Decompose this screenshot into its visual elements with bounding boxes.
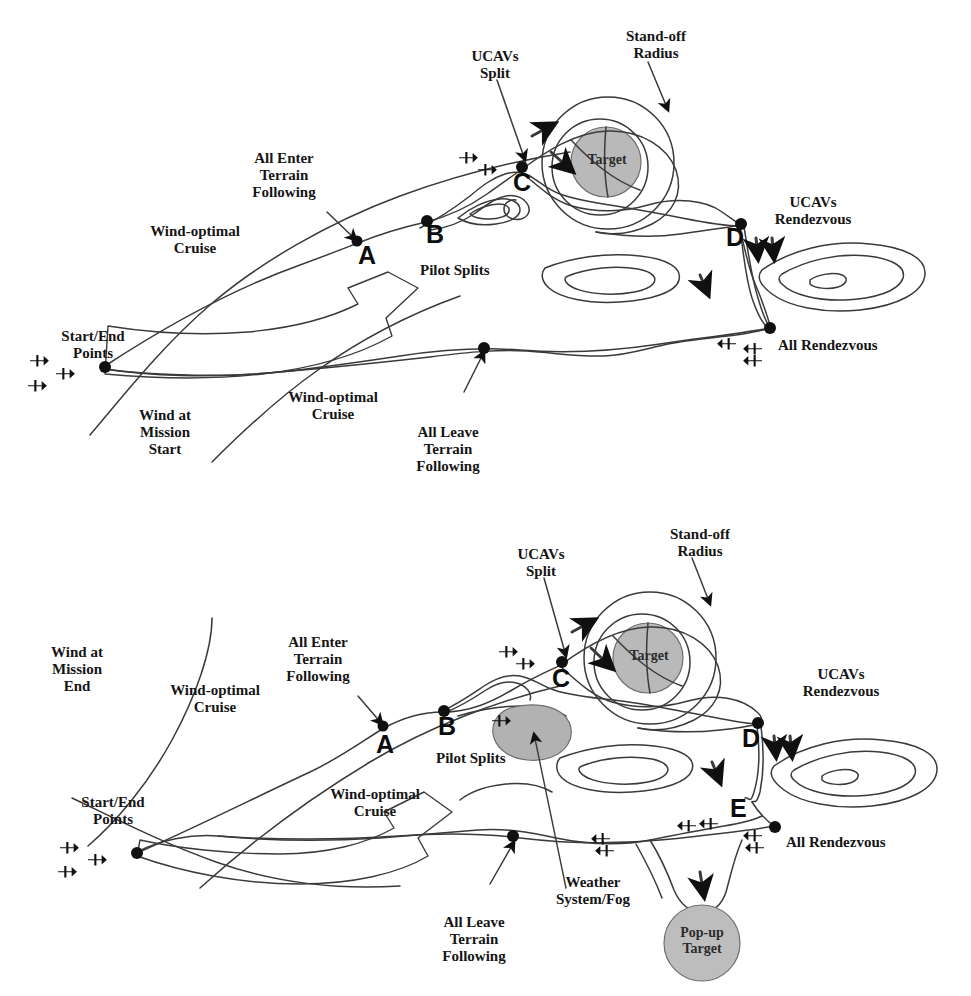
direction-arrow-d-down — [712, 762, 720, 782]
terrain-contour-left-low — [460, 783, 552, 800]
label-target: Target — [618, 648, 680, 664]
label-pilot-splits: Pilot Splits — [436, 750, 556, 767]
route-c-to-d — [638, 724, 757, 732]
waypoint-dot-all-leave-tf — [478, 342, 490, 354]
terrain-contour-mid-inner — [565, 267, 655, 294]
waypoint-dot-all-leave-tf — [507, 830, 519, 842]
waypoint-label-d: D — [726, 225, 744, 250]
label-all-rendezvous: All Rendezvous — [786, 834, 956, 851]
label-all-leave-terrain-following: All Leave Terrain Following — [414, 914, 534, 965]
aircraft-icon-approach-2 — [478, 164, 497, 176]
terrain-contour-mid-outer — [542, 255, 679, 303]
aircraft-icon-start-3 — [28, 380, 47, 392]
aircraft-icon-return-mid-2 — [595, 845, 614, 857]
label-wind-optimal-cruise-upper: Wind-optimal Cruise — [150, 682, 280, 716]
route-c-to-d — [596, 225, 740, 236]
direction-arrow-d-pair-2 — [772, 238, 774, 258]
leader-ucavs-split — [544, 578, 566, 656]
label-ucavs-split: UCAVs Split — [486, 546, 596, 580]
terrain-contour-mid-outer — [557, 745, 693, 793]
label-ucavs-split: UCAVs Split — [440, 48, 550, 82]
direction-arrow-d-pair-1 — [756, 238, 758, 258]
label-wind-at-mission-end: Wind at Mission End — [22, 644, 132, 695]
terrain-contour-right-outer — [759, 243, 925, 311]
label-wind-optimal-cruise-upper: Wind-optimal Cruise — [130, 223, 260, 257]
terrain-contour-right-mid — [791, 751, 915, 796]
leader-all-enter-tf — [358, 696, 382, 724]
label-pilot-splits: Pilot Splits — [420, 262, 540, 279]
route-return-lower — [112, 328, 770, 375]
terrain-contour-right-inner — [822, 770, 858, 785]
leader-all-leave-tf — [490, 842, 514, 884]
direction-arrow-to-popup — [700, 872, 704, 896]
route-return-lower — [137, 826, 774, 852]
leader-all-leave-tf — [464, 352, 484, 392]
terrain-contour-popup-valley — [650, 840, 742, 912]
aircraft-icon-start-3 — [58, 866, 77, 878]
label-wind-at-mission-start: Wind at Mission Start — [110, 407, 220, 458]
waypoint-label-a: A — [358, 243, 376, 268]
aircraft-icon-start-2 — [56, 368, 75, 380]
waypoint-label-a: A — [376, 732, 394, 757]
aircraft-icon-approach-1 — [499, 646, 518, 658]
label-ucavs-rendezvous: UCAVs Rendezvous — [748, 194, 878, 228]
label-all-rendezvous: All Rendezvous — [778, 337, 948, 354]
aircraft-icon-approach-2 — [516, 658, 535, 670]
label-start-end-points: Start/End Points — [38, 328, 148, 362]
waypoint-label-b: B — [426, 222, 444, 247]
aircraft-icon-rendezvous-1 — [743, 830, 762, 842]
label-popup-target: Pop-up Target — [664, 925, 740, 957]
top-mission-diagram: UCAVs Split Stand-off Radius All Enter T… — [0, 0, 971, 500]
aircraft-icon-rendezvous-1 — [717, 338, 736, 350]
waypoint-label-c: C — [513, 170, 531, 195]
leader-ucavs-split — [497, 80, 525, 160]
waypoint-dot-all-rendezvous — [764, 322, 776, 334]
aircraft-icon-rendezvous-2 — [745, 842, 764, 854]
label-wind-optimal-cruise-lower: Wind-optimal Cruise — [268, 389, 398, 423]
leader-standoff-radius — [648, 62, 668, 110]
waypoint-dot-start-end — [131, 847, 143, 859]
terrain-contour-right-outer — [771, 739, 937, 807]
label-all-enter-terrain-following: All Enter Terrain Following — [258, 634, 378, 685]
aircraft-icon-start-2 — [88, 854, 107, 866]
label-all-enter-terrain-following: All Enter Terrain Following — [224, 150, 344, 201]
label-target: Target — [576, 152, 638, 168]
aircraft-icon-e-2 — [677, 820, 696, 832]
label-weather-system-fog: Weather System/Fog — [528, 874, 658, 908]
route-d-to-rendezvous-a — [740, 227, 768, 328]
label-wind-optimal-cruise-lower: Wind-optimal Cruise — [310, 786, 440, 820]
waypoint-label-e: E — [730, 796, 747, 821]
direction-arrow-d-down — [700, 275, 708, 294]
aircraft-icon-rendezvous-2 — [743, 343, 762, 355]
aircraft-icon-start-1 — [60, 842, 79, 854]
label-standoff-radius: Stand-off Radius — [640, 526, 760, 560]
leader-standoff-radius — [692, 558, 710, 604]
direction-arrow-d-pair-2 — [790, 736, 792, 756]
aircraft-icon-approach-1 — [459, 152, 478, 164]
terrain-contour-right-inner — [810, 274, 846, 289]
direction-arrow-d-pair-1 — [774, 736, 776, 756]
bottom-mission-diagram: UCAVs Split Stand-off Radius All Enter T… — [0, 500, 971, 996]
terrain-contour-main — [218, 816, 762, 844]
waypoint-label-b: B — [438, 714, 456, 739]
route-e-to-rendezvous — [752, 802, 774, 826]
label-ucavs-rendezvous: UCAVs Rendezvous — [776, 666, 906, 700]
waypoint-dot-all-rendezvous — [769, 821, 781, 833]
terrain-contour-mid-inner — [579, 757, 668, 784]
aircraft-icon-rendezvous-3 — [743, 355, 762, 367]
label-standoff-radius: Stand-off Radius — [596, 28, 716, 62]
terrain-contour-right-mid — [779, 255, 903, 300]
direction-arrow-into-target — [551, 152, 572, 171]
waypoint-dot-start-end — [99, 361, 111, 373]
waypoint-label-c: C — [552, 666, 570, 691]
label-start-end-points: Start/End Points — [58, 794, 168, 828]
label-all-leave-terrain-following: All Leave Terrain Following — [388, 424, 508, 475]
waypoint-label-d: D — [742, 726, 760, 751]
